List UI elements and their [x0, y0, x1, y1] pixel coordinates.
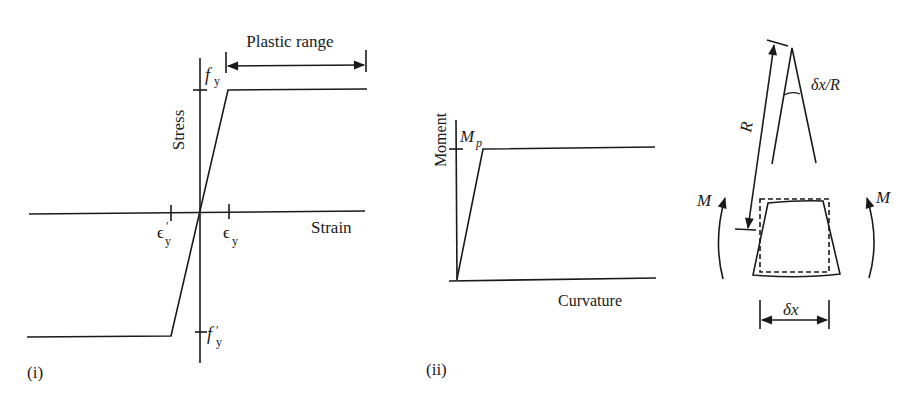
radius-arrow: [748, 45, 774, 228]
curvature-axis-label: Curvature: [558, 292, 622, 309]
panel-ii-label: (ii): [426, 360, 447, 379]
moment-curvature-panel: Moment Curvature M p (ii): [426, 112, 656, 379]
strain-axis: [29, 211, 365, 214]
left-moment-arrow: [718, 198, 725, 279]
length-label: δx: [783, 300, 799, 319]
moment-axis: [456, 120, 457, 280]
angle-arc: [784, 93, 800, 95]
stress-axis-label: Stress: [169, 110, 188, 151]
right-moment-label: M: [875, 188, 891, 207]
radius-bottom-tick: [735, 229, 756, 230]
curvature-axis: [449, 278, 656, 281]
plastic-range-arrow: [228, 65, 364, 66]
moment-axis-label: Moment: [432, 112, 449, 167]
svg-text:f: f: [205, 65, 213, 85]
angle-wedge: [772, 48, 816, 164]
svg-text:M: M: [459, 127, 475, 146]
undeformed-element-outline: [760, 199, 829, 272]
fy-label: f y: [205, 65, 220, 88]
svg-text:ϵ: ϵ: [157, 223, 164, 242]
svg-text:p: p: [475, 136, 482, 150]
svg-text:ϵ: ϵ: [223, 223, 230, 242]
strain-axis-label: Strain: [311, 218, 352, 237]
stress-strain-panel: Plastic range Stress Strain f y f ′ y ϵ …: [27, 32, 367, 382]
right-moment-arrow: [867, 198, 874, 278]
deformed-element: [753, 201, 840, 277]
radius-label: R: [736, 120, 757, 135]
svg-text:y: y: [232, 234, 238, 248]
panel-i-label: (i): [27, 363, 43, 382]
radius-top-tick: [767, 40, 788, 46]
svg-text:y: y: [216, 335, 222, 349]
angle-label: δx/R: [811, 76, 840, 93]
plastic-range-label: Plastic range: [246, 32, 333, 51]
svg-text:y: y: [214, 74, 220, 88]
beam-element-panel: R δx/R M M δx: [696, 40, 891, 329]
ey-label: ϵ y: [223, 223, 238, 248]
fy-prime-label: f ′ y: [207, 323, 222, 349]
svg-text:f: f: [207, 324, 215, 344]
left-moment-label: M: [696, 191, 712, 210]
mp-label: M p: [459, 127, 482, 150]
diagram-canvas: Plastic range Stress Strain f y f ′ y ϵ …: [0, 0, 917, 396]
svg-text:y: y: [165, 234, 171, 248]
ey-prime-label: ϵ ′ y: [157, 219, 171, 248]
moment-curvature-curve: [457, 147, 655, 279]
svg-text:′: ′: [166, 219, 169, 233]
